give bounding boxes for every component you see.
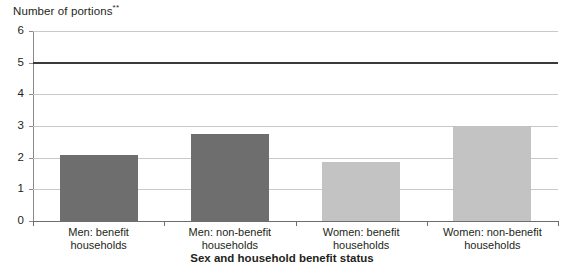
x-category-label: Women: non-benefithouseholds	[427, 226, 558, 251]
y-axis-title-text: Number of portions	[13, 5, 113, 17]
bar	[453, 126, 531, 221]
y-tick-label-5: 5	[0, 57, 24, 69]
bar-chart: Number of portions** Sex and household b…	[0, 0, 564, 270]
x-category-label-line: Men: non-benefit	[164, 226, 295, 239]
bar	[191, 134, 269, 221]
gridline-6	[33, 31, 558, 32]
x-category-label-line: households	[164, 239, 295, 252]
y-tick-label-0: 0	[0, 215, 24, 227]
bar	[60, 155, 138, 222]
bar	[322, 162, 400, 221]
y-tick-label-2: 2	[0, 152, 24, 164]
reference-line	[33, 62, 558, 64]
plot-area	[33, 31, 558, 221]
y-tick-mark-1	[29, 189, 33, 190]
y-tick-label-4: 4	[0, 88, 24, 100]
y-axis-title-superscript: **	[113, 3, 120, 12]
x-category-label: Men: non-benefithouseholds	[164, 226, 295, 251]
x-axis-title: Sex and household benefit status	[0, 252, 564, 264]
y-tick-label-6: 6	[0, 25, 24, 37]
x-category-label-line: households	[296, 239, 427, 252]
y-tick-label-3: 3	[0, 120, 24, 132]
y-tick-mark-2	[29, 158, 33, 159]
x-category-label-line: households	[427, 239, 558, 252]
x-category-label-line: Women: benefit	[296, 226, 427, 239]
x-category-label: Men: benefithouseholds	[33, 226, 164, 251]
x-category-label-line: Men: benefit	[33, 226, 164, 239]
y-tick-mark-3	[29, 126, 33, 127]
x-category-label-line: households	[33, 239, 164, 252]
x-category-label-line: Women: non-benefit	[427, 226, 558, 239]
y-tick-mark-4	[29, 94, 33, 95]
y-tick-label-1: 1	[0, 183, 24, 195]
gridline-4	[33, 94, 558, 95]
y-axis-title: Number of portions**	[13, 3, 120, 17]
y-tick-mark-6	[29, 31, 33, 32]
x-category-label: Women: benefithouseholds	[296, 226, 427, 251]
category-separator	[558, 221, 559, 226]
